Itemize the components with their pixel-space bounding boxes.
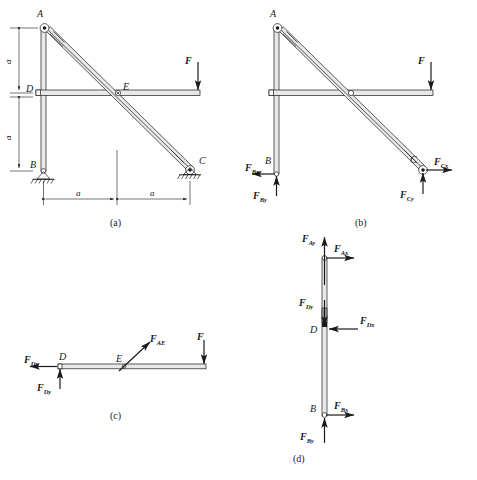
pin-joint-E [115, 90, 120, 95]
joint-label-A-a: A [36, 8, 44, 19]
panel-a: F A B C D E a a a a [3, 8, 206, 229]
pin-joint-B-b [274, 172, 278, 176]
force-label-F-c: F [196, 331, 204, 342]
joint-label-B-a: B [30, 159, 36, 170]
member-DE-F-c [58, 364, 206, 369]
joint-label-C-a: C [199, 155, 206, 166]
force-label-FDy-c: FDy [36, 382, 51, 395]
force-sub: Dy [305, 303, 314, 310]
svg-text:FAE: FAE [149, 333, 166, 346]
pin-joint-E-b [348, 90, 353, 95]
force-label-FAy-d: FAy [301, 233, 316, 246]
force-label-FAx-d: FAx [333, 243, 349, 256]
dimension-label-a-h2: a [150, 188, 155, 198]
pin-joint-A [40, 24, 49, 33]
dimension-label-a-v1: a [3, 59, 13, 64]
member-AB [41, 28, 46, 171]
svg-text:FCx: FCx [433, 156, 449, 169]
force-sub: By [259, 196, 267, 203]
force-sub: Ay [308, 239, 316, 246]
joint-label-B-b: B [265, 155, 271, 166]
dimension-label-a-v2: a [3, 135, 13, 140]
dimension-horizontal-a: a a [44, 150, 191, 205]
load-label-F-a: F [184, 55, 192, 66]
panel-b: F FBx FBy FCx FCy A B C (b [244, 8, 452, 229]
force-sub: By [306, 437, 314, 444]
member-AC [45, 27, 194, 171]
force-label-FBx-b: FBx [244, 162, 260, 175]
force-sub: Ax [340, 249, 349, 256]
force-label-FCx-b: FCx [433, 156, 449, 169]
force-label-FBy-b: FBy [252, 190, 267, 203]
svg-text:FAx: FAx [333, 243, 349, 256]
force-label-FDy-d: FDy [298, 297, 313, 310]
dimension-label-a-h1: a [76, 188, 81, 198]
joint-label-E-c: E [115, 353, 122, 364]
joint-label-E-a: E [122, 81, 129, 92]
force-label-FDx-c: FDx [23, 354, 39, 367]
svg-text:FBx: FBx [244, 162, 260, 175]
joint-label-A-b: A [269, 8, 277, 19]
panel-c: FDx FDy FAE F D E (c) [23, 331, 206, 422]
joint-label-C-b: C [410, 154, 417, 165]
force-sub: Bx [340, 406, 349, 413]
svg-text:FAy: FAy [301, 233, 316, 246]
svg-text:FBy: FBy [252, 190, 267, 203]
force-label-FBy-d: FBy [299, 431, 314, 444]
panel-d: FAy FAx FDy FDx FBx [293, 233, 375, 465]
force-sub: Dx [30, 360, 40, 367]
caption-d: (d) [293, 453, 305, 465]
force-sub: Cx [441, 162, 449, 169]
svg-text:FDx: FDx [23, 354, 39, 367]
force-sub: Dy [43, 388, 52, 395]
svg-text:FBy: FBy [299, 431, 314, 444]
figure-root: F A B C D E a a a a [0, 0, 477, 480]
svg-text:FDy: FDy [298, 297, 313, 310]
caption-b: (b) [355, 217, 367, 229]
force-label-FBx-d: FBx [333, 400, 349, 413]
force-sub: Cy [407, 195, 414, 202]
force-label-FAE-c: FAE [149, 333, 166, 346]
force-sub: Dx [366, 321, 376, 328]
svg-text:FDy: FDy [36, 382, 51, 395]
caption-c: (c) [110, 410, 121, 422]
member-AB-b [274, 28, 279, 174]
caption-a: (a) [110, 217, 121, 229]
member-D-endcap [36, 90, 41, 96]
member-AC-b [278, 27, 427, 171]
dimension-vertical-lower-a: a [3, 97, 33, 171]
force-label-FDx-d: FDx [359, 315, 375, 328]
joint-label-D-c: D [58, 351, 67, 362]
svg-text:FDx: FDx [359, 315, 375, 328]
svg-text:FBx: FBx [333, 400, 349, 413]
force-sub: Bx [251, 168, 260, 175]
joint-label-D-a: D [25, 83, 34, 94]
force-label-F-b: F [417, 55, 425, 66]
force-sub: AE [156, 339, 166, 346]
joint-label-D-d: D [309, 324, 318, 335]
pin-joint-C [186, 166, 195, 175]
joint-label-B-d: B [310, 403, 316, 414]
svg-text:FCy: FCy [399, 189, 414, 202]
force-label-FCy-b: FCy [399, 189, 414, 202]
pin-joint-A-b [273, 24, 282, 33]
